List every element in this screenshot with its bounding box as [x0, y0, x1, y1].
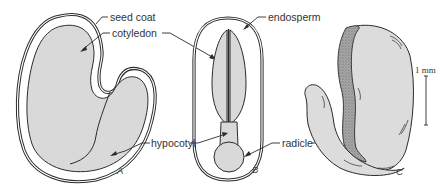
seed-c [305, 25, 428, 175]
scale-bar [424, 76, 428, 125]
label-endosperm: endosperm [268, 12, 321, 23]
label-radicle: radicle [282, 138, 313, 149]
figure-drawing [0, 0, 447, 193]
scale-bar-label: 1 mm [415, 66, 436, 75]
label-cotyledon: cotyledon [112, 28, 157, 39]
panel-label-b: B [252, 165, 258, 175]
label-hypocotyl: hypocotyl [151, 138, 195, 149]
label-seed-coat: seed coat [110, 12, 156, 23]
seed-anatomy-figure: seed coat cotyledon endosperm hypocotyl … [0, 0, 447, 193]
panel-label-c: C [396, 167, 403, 177]
seed-a-embryo [27, 25, 148, 171]
seed-b-cotyledon-right [230, 30, 246, 124]
seed-b-cotyledon-left [212, 30, 227, 124]
seed-b-radicle [214, 142, 244, 172]
seed-a [17, 15, 216, 182]
panel-label-a: A [117, 166, 123, 176]
